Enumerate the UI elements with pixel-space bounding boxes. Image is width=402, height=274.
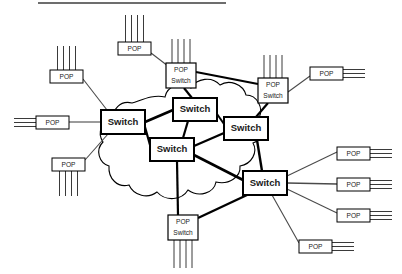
- tails-pop-east-2-right: [370, 181, 392, 189]
- link-switch-center-to-switch-east: [194, 133, 224, 146]
- tails-pop-north-up: [126, 15, 144, 42]
- pop-switch-south-label-line1: POP: [176, 218, 191, 225]
- tails-popswitch-north-up: [172, 39, 190, 63]
- tails-pop-northeast-right: [343, 70, 365, 78]
- tails-popswitch-east-up: [264, 55, 282, 78]
- switch-east[interactable]: Switch: [224, 117, 268, 140]
- pop-west[interactable]: POP: [36, 116, 69, 129]
- pop-east-2-label: POP: [347, 181, 362, 188]
- tails-pop-southeast-right: [332, 243, 354, 251]
- link-switch-north-to-popswitch-north: [184, 88, 192, 98]
- pop-southeast-label: POP: [309, 243, 324, 250]
- link-pop-east-2-to-switch-southeast: [287, 183, 337, 184]
- tails-pop-west-left: [14, 119, 36, 127]
- link-switch-west-to-switch-north: [145, 110, 173, 122]
- pop-switch-north-label-line2: Switch: [171, 77, 191, 84]
- link-pop-southeast-to-switch-southeast: [272, 195, 299, 243]
- tails-pop-east-1-right: [370, 150, 392, 158]
- switch-center[interactable]: Switch: [150, 138, 194, 161]
- switch-center-label: Switch: [157, 143, 188, 154]
- pop-east-3[interactable]: POP: [337, 209, 370, 222]
- link-pop-east-1-to-switch-southeast: [287, 152, 337, 176]
- pop-switch-south[interactable]: POPSwitch: [168, 215, 198, 240]
- pop-east-1[interactable]: POP: [337, 147, 370, 160]
- pop-northwest[interactable]: POP: [50, 70, 83, 83]
- link-switch-east-to-switch-southeast: [257, 140, 262, 171]
- pop-southwest[interactable]: POP: [52, 158, 85, 171]
- link-switch-north-to-switch-east: [217, 114, 224, 124]
- link-switch-center-to-popswitch-south: [177, 161, 178, 215]
- pop-switch-north[interactable]: POPSwitch: [166, 63, 196, 88]
- pop-switch-east[interactable]: POPSwitch: [258, 78, 288, 103]
- switch-north[interactable]: Switch: [173, 98, 217, 121]
- link-pop-east-3-to-switch-southeast: [287, 189, 337, 213]
- pop-east-3-label: POP: [347, 212, 362, 219]
- pop-east-2[interactable]: POP: [337, 178, 370, 191]
- network-topology-svg: SwitchSwitchSwitchSwitchSwitchPOPSwitchP…: [0, 0, 402, 274]
- pop-east-1-label: POP: [347, 150, 362, 157]
- pop-west-label: POP: [46, 119, 61, 126]
- link-pop-southwest-to-switch-west: [85, 134, 108, 160]
- pop-switch-east-label-line1: POP: [266, 81, 281, 88]
- pop-southwest-label: POP: [62, 161, 77, 168]
- pop-north-label: POP: [128, 45, 143, 52]
- switch-southeast[interactable]: Switch: [243, 171, 287, 195]
- switch-east-label: Switch: [231, 122, 262, 133]
- link-pop-northeast-to-popswitch-east: [288, 76, 310, 92]
- pop-switch-south-label-line2: Switch: [173, 229, 193, 236]
- link-pop-northwest-to-switch-west: [83, 79, 107, 110]
- link-switch-center-to-switch-southeast: [194, 155, 243, 180]
- switch-west[interactable]: Switch: [101, 110, 145, 134]
- pop-northwest-label: POP: [60, 73, 75, 80]
- pop-southeast[interactable]: POP: [299, 240, 332, 253]
- tails-pop-east-3-right: [370, 212, 392, 220]
- tails-popswitch-south-down: [174, 240, 192, 268]
- switch-west-label: Switch: [108, 116, 139, 127]
- link-switch-north-to-switch-center: [183, 121, 188, 138]
- pop-switch-north-label-line1: POP: [174, 66, 189, 73]
- link-switch-east-to-popswitch-east: [256, 103, 268, 117]
- pop-northeast[interactable]: POP: [310, 67, 343, 80]
- tails-pop-northwest-up: [58, 46, 76, 70]
- switch-north-label: Switch: [180, 103, 211, 114]
- link-popswitch-south-to-switch-southeast: [198, 195, 247, 218]
- pop-switch-east-label-line2: Switch: [263, 92, 283, 99]
- pop-north[interactable]: POP: [118, 42, 151, 55]
- switch-southeast-label: Switch: [250, 177, 281, 188]
- pop-northeast-label: POP: [320, 70, 335, 77]
- tails-pop-southwest-down: [60, 171, 78, 196]
- network-diagram-root: SwitchSwitchSwitchSwitchSwitchPOPSwitchP…: [0, 0, 402, 274]
